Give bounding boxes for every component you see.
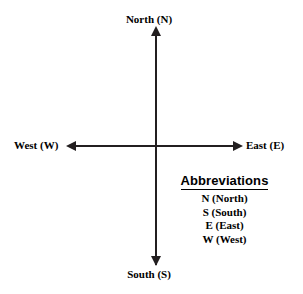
abbreviations-list: N (North) S (South) E (East) W (West) bbox=[162, 192, 287, 246]
list-item: S (South) bbox=[162, 206, 287, 220]
arrow-down-icon bbox=[151, 256, 161, 266]
west-east-axis-line bbox=[68, 145, 241, 147]
arrow-left-icon bbox=[66, 141, 76, 151]
abbreviations-legend: Abbreviations N (North) S (South) E (Eas… bbox=[162, 171, 287, 246]
north-label: North (N) bbox=[0, 13, 303, 26]
east-label: East (E) bbox=[246, 139, 284, 152]
arrow-up-icon bbox=[151, 26, 161, 36]
compass-directions-diagram: North (N) South (S) West (W) East (E) Ab… bbox=[0, 0, 303, 294]
west-label: West (W) bbox=[14, 139, 58, 152]
abbreviations-heading: Abbreviations bbox=[181, 173, 269, 190]
list-item: W (West) bbox=[162, 233, 287, 247]
list-item: N (North) bbox=[162, 192, 287, 206]
arrow-right-icon bbox=[233, 141, 243, 151]
south-label: South (S) bbox=[0, 268, 303, 281]
list-item: E (East) bbox=[162, 219, 287, 233]
